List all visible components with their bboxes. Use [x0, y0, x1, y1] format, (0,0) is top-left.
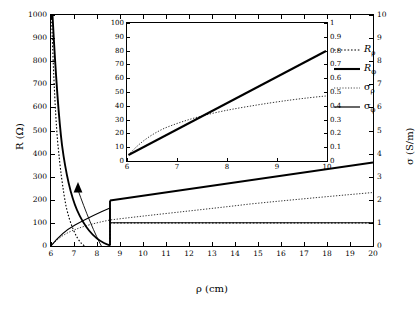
x-tick-main	[212, 242, 213, 246]
y-tick-left-main	[51, 84, 55, 85]
y-tick-label-right-inset: 0	[330, 157, 348, 165]
y-tick-label-right-inset: 1	[330, 19, 348, 27]
y-tick-label-left-inset: 50	[107, 88, 124, 96]
x-tick-inset	[227, 158, 228, 161]
x-tick-main-top	[74, 15, 75, 19]
y-tick-label-right-main: 3	[377, 172, 393, 181]
legend-label-R-phi: Rφ	[364, 62, 376, 76]
inset-series-sigma-rho	[129, 96, 327, 155]
x-tick-label-main: 12	[184, 249, 194, 258]
x-tick-label-main: 11	[161, 249, 171, 258]
legend-key-R-rho	[334, 45, 360, 55]
y-tick-right-main	[369, 200, 373, 201]
x-tick-inset	[277, 158, 278, 161]
y-tick-label-left-main: 700	[25, 79, 47, 88]
y-tick-right-inset	[324, 161, 327, 162]
x-tick-label-main: 7	[69, 249, 79, 258]
x-tick-label-main: 17	[299, 249, 309, 258]
y-tick-label-right-main: 10	[377, 10, 393, 19]
x-axis-title: ρ (cm)	[196, 283, 228, 294]
y-tick-label-left-inset: 30	[107, 116, 124, 124]
x-tick-main	[235, 242, 236, 246]
y-tick-right-inset	[324, 92, 327, 93]
y-tick-right-inset	[324, 51, 327, 52]
x-tick-main-top	[281, 15, 282, 19]
legend-item-sigma-phi: σφ	[334, 97, 402, 116]
x-tick-main-top	[327, 15, 328, 19]
y-tick-label-left-main: 200	[25, 195, 47, 204]
y-tick-right-main	[369, 246, 373, 247]
x-tick-label-main: 9	[115, 249, 125, 258]
y-tick-label-right-inset: 0.3	[330, 116, 348, 124]
y-tick-right-main	[369, 131, 373, 132]
y-tick-label-left-inset: 100	[107, 19, 124, 27]
y-tick-right-main	[369, 223, 373, 224]
y-tick-label-left-inset: 0	[107, 157, 124, 165]
x-tick-label-main: 19	[345, 249, 355, 258]
x-tick-inset	[327, 158, 328, 161]
x-tick-main-top	[166, 15, 167, 19]
y-tick-right-main	[369, 15, 373, 16]
y-tick-right-main	[369, 154, 373, 155]
y-tick-left-inset	[127, 106, 130, 107]
y-tick-left-inset	[127, 64, 130, 65]
y-tick-label-left-main: 400	[25, 149, 47, 158]
y-tick-label-right-main: 2	[377, 195, 393, 204]
x-tick-main	[189, 242, 190, 246]
x-tick-main-top	[258, 15, 259, 19]
x-tick-main	[350, 242, 351, 246]
y-tick-left-inset	[127, 120, 130, 121]
x-tick-label-inset: 7	[172, 163, 182, 171]
y-axis-left-title: R (Ω)	[14, 123, 25, 150]
x-tick-main	[120, 242, 121, 246]
y-tick-label-left-inset: 60	[107, 74, 124, 82]
legend-key-sigma-rho	[334, 83, 360, 93]
y-tick-left-inset	[127, 78, 130, 79]
y-axis-right-title: σ (S/m)	[404, 127, 415, 165]
y-tick-right-inset	[324, 37, 327, 38]
y-tick-left-main	[51, 200, 55, 201]
y-tick-left-main	[51, 61, 55, 62]
y-tick-right-inset	[324, 106, 327, 107]
x-tick-label-main: 8	[92, 249, 102, 258]
x-tick-main-top	[97, 15, 98, 19]
x-tick-main	[166, 242, 167, 246]
y-tick-label-left-main: 500	[25, 126, 47, 135]
y-tick-label-right-main: 0	[377, 241, 393, 250]
y-tick-left-main	[51, 38, 55, 39]
x-tick-main-top	[212, 15, 213, 19]
y-tick-left-main	[51, 177, 55, 178]
y-tick-label-left-main: 600	[25, 102, 47, 111]
y-tick-right-inset	[324, 147, 327, 148]
x-tick-label-main: 18	[322, 249, 332, 258]
y-tick-label-left-inset: 70	[107, 60, 124, 68]
x-tick-main	[281, 242, 282, 246]
y-tick-left-main	[51, 154, 55, 155]
y-tick-left-main	[51, 107, 55, 108]
x-tick-main	[304, 242, 305, 246]
y-tick-right-inset	[324, 120, 327, 121]
y-tick-right-inset	[324, 78, 327, 79]
y-tick-left-inset	[127, 37, 130, 38]
x-tick-inset	[177, 158, 178, 161]
x-tick-label-inset: 8	[222, 163, 232, 171]
x-tick-main-top	[373, 15, 374, 19]
y-tick-label-right-inset: 0.2	[330, 129, 348, 137]
y-tick-left-main	[51, 223, 55, 224]
chart-figure: 6789101112131415161718192001002003004005…	[0, 0, 415, 310]
legend-label-sigma-rho: σρ	[364, 81, 375, 95]
x-tick-label-main: 15	[253, 249, 263, 258]
x-tick-main-top	[350, 15, 351, 19]
y-tick-label-right-main: 1	[377, 218, 393, 227]
y-tick-label-right-inset: 0.1	[330, 143, 348, 151]
x-tick-main	[327, 242, 328, 246]
x-tick-main	[143, 242, 144, 246]
y-tick-left-inset	[127, 147, 130, 148]
y-tick-label-left-main: 900	[25, 33, 47, 42]
x-tick-label-main: 6	[46, 249, 56, 258]
y-tick-left-main	[51, 246, 55, 247]
inset-series-sigma-phi	[129, 51, 327, 155]
legend: Rρ Rφ σρ σφ	[334, 40, 402, 116]
y-tick-right-inset	[324, 23, 327, 24]
y-tick-right-inset	[324, 64, 327, 65]
